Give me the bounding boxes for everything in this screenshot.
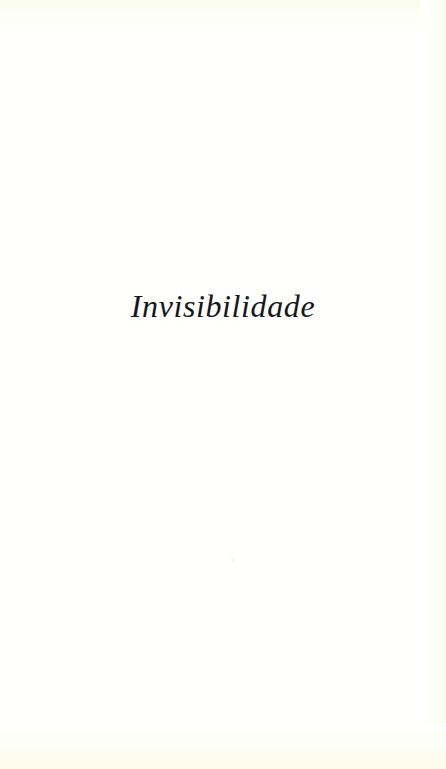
part-title-block: Invisibilidade: [0, 286, 446, 326]
page-edge-tint-bottom: [0, 723, 446, 769]
part-title: Invisibilidade: [131, 286, 315, 326]
scanned-page: Invisibilidade: [0, 0, 446, 769]
page-edge-tint-top: [0, 0, 446, 40]
scan-speck-artifact: [231, 557, 235, 562]
page-edge-tint-right: [420, 0, 446, 769]
